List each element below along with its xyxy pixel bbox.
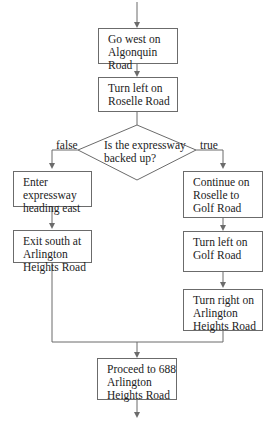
branch-label-true: true [200,139,218,152]
node-proceed: Proceed to 688 Arlington Heights Road [97,358,177,400]
node-turn-left-roselle: Turn left on Roselle Road [98,77,178,112]
node-continue-roselle: Continue on Roselle to Golf Road [183,171,263,218]
node-turn-left-golf: Turn left on Golf Road [183,231,263,272]
decision-line2: backed up? [104,152,186,165]
decision-text: Is the expressway backed up? [104,139,186,165]
node-turn-right-arlington: Turn right on Arlington Heights Road [183,289,263,331]
node-go-west: Go west on Algonquin Road [98,28,178,64]
decision-line1: Is the expressway [104,139,186,152]
node-exit-south: Exit south at Arlington Heights Road [13,230,92,263]
node-enter-expressway: Enter expressway heading east [13,171,92,207]
branch-label-false: false [56,139,78,152]
